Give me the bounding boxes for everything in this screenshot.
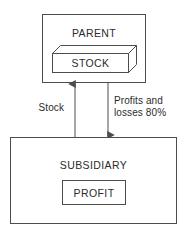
- node-stock-cuboid[interactable]: STOCK: [53, 46, 137, 73]
- corporate-structure-diagram: PARENT STOCK Stock Profits and losses 80…: [0, 0, 186, 238]
- stock-label: STOCK: [72, 57, 110, 69]
- parent-label: PARENT: [72, 27, 116, 39]
- profits-losses-edge-label-line2: losses 80%: [114, 107, 166, 118]
- stock-top-face: [53, 46, 137, 54]
- edge-profits-losses[interactable]: Profits and losses 80%: [108, 82, 166, 135]
- edge-stock[interactable]: Stock: [38, 84, 75, 137]
- stock-edge-label: Stock: [38, 102, 64, 113]
- profit-label: PROFIT: [74, 187, 115, 199]
- subsidiary-label: SUBSIDIARY: [60, 159, 127, 171]
- node-profit[interactable]: PROFIT: [63, 181, 126, 205]
- profits-losses-edge-label-line1: Profits and: [114, 95, 163, 106]
